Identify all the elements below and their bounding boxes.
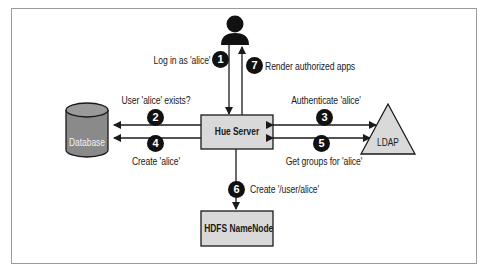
step-badge-5: 5 xyxy=(313,135,330,152)
step-badge-7: 7 xyxy=(246,57,263,74)
database-node xyxy=(66,103,108,157)
step-label-2: User 'alice' exists? xyxy=(115,94,197,106)
step-badge-6: 6 xyxy=(228,181,245,198)
person-icon xyxy=(221,16,249,46)
step-badge-2: 2 xyxy=(147,109,164,126)
step-label-1: Log in as 'alice' xyxy=(153,54,210,66)
step-label-3: Authenticate 'alice' xyxy=(283,94,368,106)
step-label-5: Get groups for 'alice' xyxy=(275,155,373,167)
step-label-4: Create 'alice' xyxy=(123,155,189,167)
ldap-label: LDAP xyxy=(374,136,403,148)
hdfs-namenode-label: HDFS NameNode xyxy=(204,222,270,234)
step-badge-1: 1 xyxy=(212,51,229,68)
hue-server-label: Hue Server xyxy=(208,125,266,137)
step-badge-3: 3 xyxy=(316,109,333,126)
step-label-7: Render authorized apps xyxy=(265,60,355,72)
step-label-6: Create '/user/alice' xyxy=(250,183,319,195)
step-badge-4: 4 xyxy=(147,135,164,152)
database-label: Database xyxy=(65,136,108,148)
